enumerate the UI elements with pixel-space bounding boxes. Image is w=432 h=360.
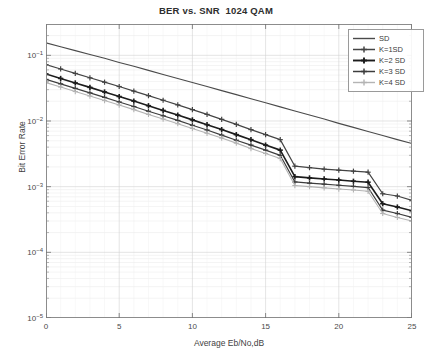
y-tick-label: 10−5 — [27, 313, 43, 324]
series-marker — [58, 76, 63, 81]
series-line-k-4-sd — [46, 83, 412, 221]
legend-line-swatch — [351, 33, 377, 44]
series-marker — [322, 167, 327, 172]
x-tick-label: 15 — [261, 322, 270, 331]
legend-label: K=2 SD — [377, 56, 405, 65]
y-tick-label: 10−1 — [27, 50, 43, 61]
series-marker — [204, 131, 209, 136]
series-marker — [58, 84, 63, 89]
series-marker — [87, 75, 92, 80]
series-marker — [131, 107, 136, 112]
chart-figure: BER vs. SNR 1024 QAM 10−110−210−310−410−… — [0, 0, 432, 360]
series-marker — [395, 193, 400, 198]
legend-line-swatch — [351, 44, 377, 55]
legend-item[interactable]: K=4 SD — [351, 77, 421, 88]
y-axis-label: Bit Error Rate — [17, 77, 27, 217]
series-marker — [87, 85, 92, 90]
series-marker — [161, 98, 166, 103]
series-marker — [248, 137, 253, 142]
x-tick-label: 20 — [334, 322, 343, 331]
series-marker — [278, 156, 283, 161]
series-marker — [190, 107, 195, 112]
series-marker — [204, 122, 209, 127]
x-tick-label: 25 — [408, 322, 417, 331]
y-tick-label: 10−2 — [27, 116, 43, 127]
legend-label: K=1SD — [377, 45, 403, 54]
series-marker — [175, 102, 180, 107]
series-marker — [58, 66, 63, 71]
series-marker — [190, 126, 195, 131]
legend-item[interactable]: SD — [351, 33, 421, 44]
chart-title: BER vs. SNR 1024 QAM — [0, 5, 432, 16]
x-tick-label: 5 — [117, 322, 121, 331]
series-marker — [117, 94, 122, 99]
series-marker — [292, 164, 297, 169]
series-marker — [234, 132, 239, 137]
series-marker — [175, 121, 180, 126]
x-tick-label: 10 — [188, 322, 197, 331]
legend-item[interactable]: K=2 SD — [351, 55, 421, 66]
legend-item[interactable]: K=1SD — [351, 44, 421, 55]
series-marker — [395, 215, 400, 220]
series-marker — [395, 204, 400, 209]
series-marker — [204, 112, 209, 117]
legend-line-swatch — [351, 77, 377, 88]
legend-label: K=3 SD — [377, 67, 405, 76]
series-marker — [73, 80, 78, 85]
chart-legend: SDK=1SDK=2 SDK=3 SDK=4 SD — [348, 29, 424, 92]
legend-item[interactable]: K=3 SD — [351, 66, 421, 77]
series-marker — [234, 122, 239, 127]
series-marker — [307, 175, 312, 180]
series-marker — [351, 179, 356, 184]
series-marker — [131, 98, 136, 103]
series-marker — [307, 165, 312, 170]
series-marker — [351, 187, 356, 192]
series-marker — [336, 168, 341, 173]
series-marker — [292, 183, 297, 188]
series-marker — [307, 184, 312, 189]
series-marker — [102, 98, 107, 103]
y-tick-label: 10−3 — [27, 181, 43, 192]
series-marker — [322, 176, 327, 181]
legend-label: K=4 SD — [377, 78, 405, 87]
series-marker — [146, 103, 151, 108]
x-tick-label: 0 — [44, 322, 48, 331]
series-marker — [351, 169, 356, 174]
y-tick-label: 10−4 — [27, 247, 43, 258]
x-axis-label: Average Eb/No,dB — [46, 338, 412, 348]
series-marker — [146, 93, 151, 98]
legend-line-swatch — [351, 66, 377, 77]
series-marker — [102, 80, 107, 85]
series-marker — [336, 177, 341, 182]
series-marker — [146, 112, 151, 117]
series-marker — [248, 146, 253, 151]
series-marker — [117, 102, 122, 107]
series-marker — [131, 89, 136, 94]
legend-label: SD — [377, 34, 389, 43]
series-marker — [87, 93, 92, 98]
series-marker — [117, 84, 122, 89]
series-marker — [263, 132, 268, 137]
series-marker — [175, 112, 180, 117]
series-marker — [336, 186, 341, 191]
series-marker — [161, 108, 166, 113]
series-marker — [102, 89, 107, 94]
legend-line-swatch — [351, 55, 377, 66]
series-marker — [278, 137, 283, 142]
series-marker — [190, 117, 195, 122]
